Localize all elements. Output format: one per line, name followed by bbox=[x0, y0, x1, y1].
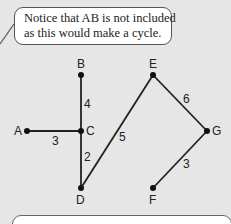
vertex-label-G: G bbox=[212, 124, 221, 138]
vertex-G bbox=[204, 128, 210, 134]
edges bbox=[27, 75, 207, 188]
weight-AC: 3 bbox=[52, 134, 59, 148]
vertex-C bbox=[78, 128, 84, 134]
vertex-label-E: E bbox=[149, 57, 157, 71]
callout-pointer bbox=[0, 24, 14, 44]
vertex-B bbox=[78, 72, 84, 78]
spanning-tree-graph: A B C D E F G 3 4 2 5 6 3 bbox=[0, 0, 231, 224]
weight-BC: 4 bbox=[84, 97, 91, 111]
weight-CD: 2 bbox=[84, 150, 91, 164]
vertex-F bbox=[150, 185, 156, 191]
vertex-label-A: A bbox=[14, 124, 22, 138]
vertex-A bbox=[24, 128, 30, 134]
vertex-label-F: F bbox=[149, 193, 156, 207]
weight-DE: 5 bbox=[119, 130, 126, 144]
vertex-label-D: D bbox=[76, 193, 85, 207]
vertex-E bbox=[150, 72, 156, 78]
weight-GF: 3 bbox=[183, 157, 190, 171]
edge-GF bbox=[153, 131, 207, 188]
vertex-label-C: C bbox=[86, 124, 95, 138]
edge-EG bbox=[153, 75, 207, 131]
weight-EG: 6 bbox=[183, 92, 190, 106]
vertex-label-B: B bbox=[77, 57, 85, 71]
vertex-D bbox=[78, 185, 84, 191]
